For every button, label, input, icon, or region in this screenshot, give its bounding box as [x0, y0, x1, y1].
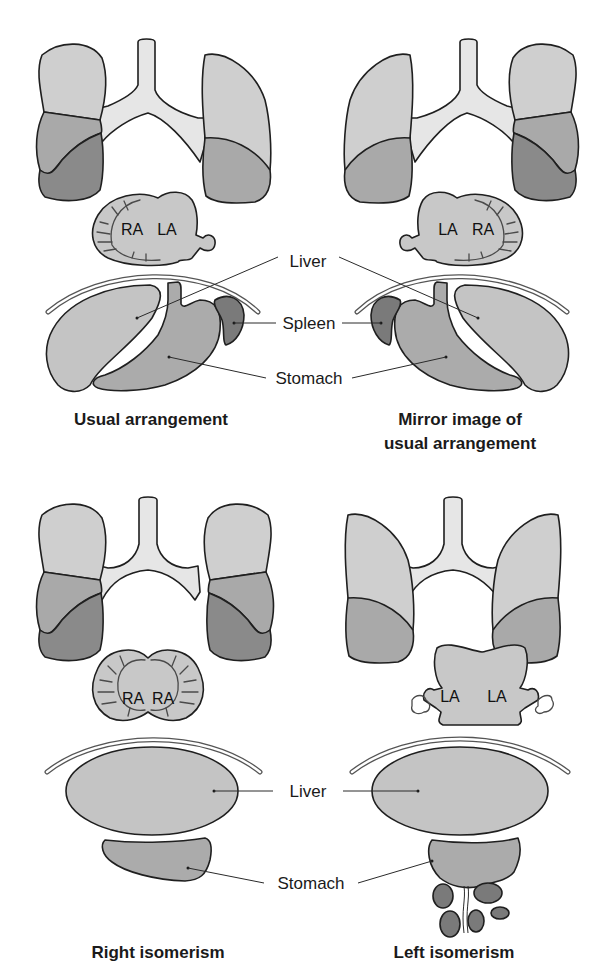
- panel-title-usual: Usual arrangement: [74, 410, 228, 429]
- polysplenia: [433, 883, 509, 937]
- situs-diagram: RA LA Usual arrangement: [0, 0, 615, 968]
- atrium-label-ra: RA: [472, 221, 495, 238]
- atrium-label-la: LA: [440, 688, 460, 705]
- lung-three-lobed-left: [37, 44, 106, 200]
- atrium-label-ra: RA: [121, 221, 144, 238]
- lung-two-lobed-right: [202, 54, 271, 203]
- panel-usual-arrangement: RA LA Usual arrangement: [37, 39, 271, 429]
- atrium-label-la: LA: [487, 688, 507, 705]
- panel-title-mirror-line2: usual arrangement: [384, 434, 536, 453]
- atrium-label-ra: RA: [122, 690, 145, 707]
- label-liver: Liver: [290, 782, 327, 801]
- panel-right-isomerism: RA RA Right isomerism: [37, 497, 274, 962]
- label-stomach: Stomach: [277, 874, 344, 893]
- heart-usual: RA LA: [93, 192, 216, 265]
- panel-title-right-isomerism: Right isomerism: [91, 943, 224, 962]
- label-liver: Liver: [290, 252, 327, 271]
- label-stomach: Stomach: [275, 369, 342, 388]
- panel-title-left-isomerism: Left isomerism: [394, 943, 515, 962]
- trachea-bronchi: [100, 39, 205, 162]
- label-spleen: Spleen: [283, 314, 336, 333]
- atrium-label-ra: RA: [152, 690, 175, 707]
- stomach-left-isomerism: [429, 838, 520, 888]
- liver-right-isomerism: [66, 747, 238, 835]
- panel-title-mirror-line1: Mirror image of: [398, 410, 522, 429]
- atrium-label-la: LA: [157, 221, 177, 238]
- panel-left-isomerism: LA LA Left isomerism: [345, 497, 568, 962]
- panel-mirror-image: LA RA Mirror image of usual arrangement: [344, 39, 578, 453]
- atrium-label-la: LA: [438, 221, 458, 238]
- stomach-right-isomerism: [102, 838, 211, 881]
- heart-right-isomerism: [93, 650, 204, 720]
